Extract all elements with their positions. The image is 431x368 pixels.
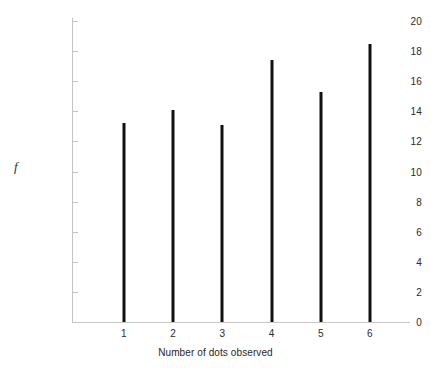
bar xyxy=(369,44,372,322)
y-axis-tick xyxy=(73,232,78,233)
bar xyxy=(123,123,126,322)
y-axis-tick-label: 20 xyxy=(371,16,431,27)
y-axis-tick xyxy=(73,262,78,263)
bar xyxy=(221,125,224,322)
y-axis-tick-label: 16 xyxy=(371,76,431,87)
y-axis-tick-label: 2 xyxy=(371,286,431,297)
y-axis-tick-label: 12 xyxy=(371,136,431,147)
y-axis-tick xyxy=(73,202,78,203)
y-axis-tick xyxy=(73,292,78,293)
y-axis-tick xyxy=(73,111,78,112)
y-axis-tick xyxy=(73,322,78,323)
y-axis-tick-label: 18 xyxy=(371,46,431,57)
y-axis-label: f xyxy=(14,160,18,173)
y-axis-line xyxy=(72,18,73,323)
x-axis-line xyxy=(72,322,410,323)
y-axis-tick xyxy=(73,141,78,142)
y-axis-tick-label: 10 xyxy=(371,166,431,177)
y-axis-tick-label: 4 xyxy=(371,256,431,267)
y-axis-tick-label: 8 xyxy=(371,196,431,207)
x-axis-label: Number of dots observed xyxy=(0,347,431,358)
x-axis-tick-label: 3 xyxy=(220,328,226,339)
x-axis-tick-label: 1 xyxy=(121,328,127,339)
x-axis-tick-label: 5 xyxy=(318,328,324,339)
x-axis-tick-label: 6 xyxy=(367,328,373,339)
bar xyxy=(172,110,175,322)
x-axis-tick-label: 2 xyxy=(170,328,176,339)
x-axis-tick-label: 4 xyxy=(269,328,275,339)
bar xyxy=(270,60,273,322)
y-axis-tick xyxy=(73,51,78,52)
y-axis-tick-label: 14 xyxy=(371,106,431,117)
frequency-bar-chart: f 02468101214161820 123456 Number of dot… xyxy=(0,0,431,368)
y-axis-tick-label: 6 xyxy=(371,226,431,237)
y-axis-tick xyxy=(73,172,78,173)
y-axis-tick xyxy=(73,21,78,22)
y-axis-tick xyxy=(73,81,78,82)
y-axis-tick-label: 0 xyxy=(371,317,431,328)
bar xyxy=(319,92,322,322)
